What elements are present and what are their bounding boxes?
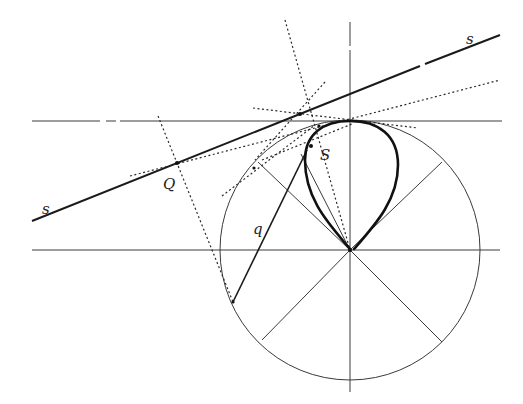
point-left-arc: [252, 166, 255, 169]
point-foot-q: [231, 300, 234, 303]
label-s-right: s: [466, 30, 474, 48]
label-q: q: [253, 220, 263, 238]
point-Q: [175, 161, 179, 165]
label-S: S: [320, 146, 330, 164]
label-s-left: s: [42, 200, 50, 218]
dotted-line-upper-parallel: [130, 80, 500, 176]
diagonal-lower-left: [262, 250, 350, 340]
point-intersection-top: [298, 112, 302, 116]
segment-to-center: [301, 154, 350, 250]
line-s: [32, 66, 420, 221]
dotted-line-cross: [253, 108, 418, 128]
diagonal-upper-left: [258, 162, 350, 250]
diagonal-lower-right: [350, 250, 442, 342]
dotted-line-steep: [285, 20, 350, 250]
geometry-figure: s s Q S q: [0, 0, 523, 404]
point-center: [348, 248, 352, 252]
diagram-canvas: s s Q S q: [0, 0, 523, 404]
label-Q: Q: [163, 175, 175, 193]
point-S: [309, 144, 313, 148]
point-tangent: [317, 124, 320, 127]
teardrop-curve: [305, 121, 398, 249]
line-s-2: [425, 35, 500, 64]
